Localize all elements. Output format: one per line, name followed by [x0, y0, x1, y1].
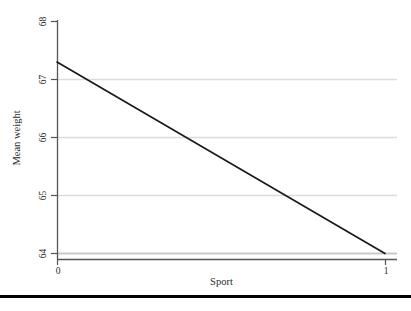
- figure-canvas: 68 67 66 65 64 0 1 Mean weight Sport: [0, 0, 411, 311]
- bottom-divider: [0, 295, 411, 298]
- y-axis-title: Mean weight: [10, 93, 24, 183]
- y-tick-label-67: 67: [39, 69, 50, 91]
- x-axis-title: Sport: [57, 276, 386, 287]
- y-tick-marks: [51, 22, 57, 254]
- data-line-mean-weight: [57, 62, 385, 253]
- y-tick-label-65: 65: [39, 185, 50, 207]
- gridlines: [57, 80, 397, 254]
- y-tick-label-68: 68: [39, 11, 50, 33]
- plot-area: [0, 0, 411, 311]
- y-tick-label-64: 64: [39, 243, 50, 265]
- y-tick-label-66: 66: [39, 127, 50, 149]
